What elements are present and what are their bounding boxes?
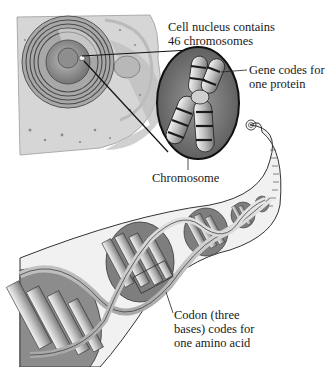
codon-label-line2: bases) codes for	[174, 322, 255, 336]
codon-label-line1: Codon (three	[174, 308, 255, 322]
gene-label-line2: one protein	[249, 77, 325, 91]
gene-label: Gene codes for one protein	[249, 63, 325, 91]
nucleus	[22, 16, 114, 108]
chromosome-magnifier	[157, 47, 247, 170]
nucleus-label-line1: Cell nucleus contains	[168, 20, 275, 34]
codon-label-line3: one amino acid	[174, 336, 255, 350]
codon-label: Codon (three bases) codes for one amino …	[174, 308, 255, 350]
nucleus-label: Cell nucleus contains 46 chromosomes	[168, 20, 275, 48]
nucleus-label-line2: 46 chromosomes	[168, 34, 275, 48]
chromosome-label: Chromosome	[152, 171, 219, 185]
gene-label-line1: Gene codes for	[249, 63, 325, 77]
